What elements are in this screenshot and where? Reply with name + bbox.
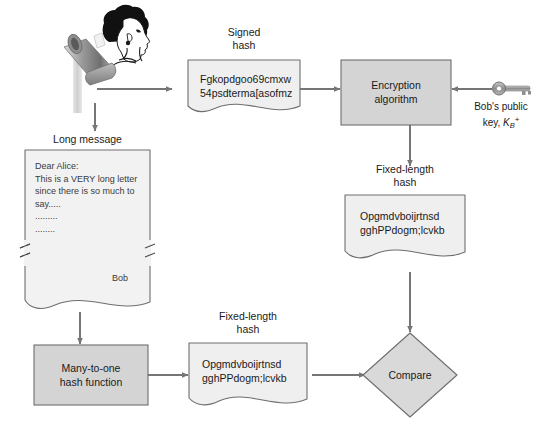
fixed-hash-bottom-line1: Opgmdvboijrtnsd — [202, 358, 281, 370]
fixed-hash-right-line1: Opgmdvboijrtnsd — [360, 210, 439, 222]
diagram-canvas: Signed hash Fgkopdgoo69cmxw54psdterma[as… — [0, 0, 545, 433]
signed-hash-line1: Fgkopdgoo69cmxw — [200, 73, 291, 85]
bobs-public-key-label: Bob's publickey, KB+ — [458, 100, 544, 132]
fixed-hash-bottom-document-text: OpgmdvboijrtnsdgghPPdogm;lcvkb — [202, 357, 312, 385]
long-message-caption: Long message — [25, 133, 150, 146]
hash-function-line2: hash function — [60, 376, 122, 388]
signed-hash-caption: Signed hash — [188, 26, 300, 52]
encryption-algorithm-line1: Encryption — [371, 79, 421, 91]
hash-function-text: Many-to-onehash function — [34, 362, 148, 389]
encryption-algorithm-line2: algorithm — [374, 93, 417, 105]
long-message-line5: ......... — [35, 211, 58, 221]
hash-function-line1: Many-to-one — [62, 362, 121, 374]
long-message-line1: Dear Alice: — [35, 161, 79, 171]
bobs-public-key-line2-prefix: key, — [483, 117, 503, 128]
long-message-document-text: Dear Alice:This is a VERY long lettersin… — [35, 160, 155, 235]
bobs-public-key-superscript: + — [515, 115, 520, 124]
signed-hash-line2: 54psdterma[asofmz — [200, 87, 292, 99]
signed-hash-document-text: Fgkopdgoo69cmxw54psdterma[asofmz — [200, 72, 300, 100]
fixed-length-hash-bottom-caption: Fixed-length hash — [189, 310, 307, 336]
key-icon — [493, 82, 532, 95]
bob-person-icon — [103, 5, 150, 66]
long-message-line2: This is a VERY long letter — [35, 174, 137, 184]
long-message-line6: ........ — [35, 224, 55, 234]
bobs-public-key-symbol: K — [503, 117, 510, 128]
fixed-length-hash-right-caption: Fixed-length hash — [345, 163, 465, 189]
long-message-line3: since there is so much to — [35, 186, 135, 196]
mailbox-icon — [64, 32, 116, 113]
bobs-public-key-line1: Bob's public — [474, 101, 528, 112]
long-message-signature: Bob — [112, 273, 128, 283]
fixed-hash-right-document-text: OpgmdvboijrtnsdgghPPdogm;lcvkb — [360, 209, 470, 237]
compare-text: Compare — [363, 369, 457, 383]
encryption-algorithm-text: Encryptionalgorithm — [341, 79, 451, 106]
fixed-hash-bottom-line2: gghPPdogm;lcvkb — [202, 372, 287, 384]
fixed-hash-right-line2: gghPPdogm;lcvkb — [360, 224, 445, 236]
long-message-line4: say..... — [35, 199, 61, 209]
